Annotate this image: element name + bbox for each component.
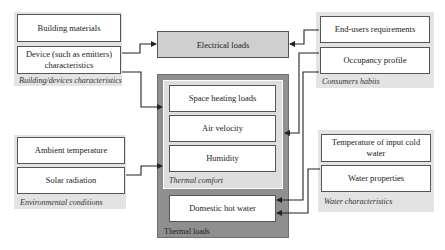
water-properties-to-dhw-arrow xyxy=(277,169,320,213)
end-users-to-electrical-arrow xyxy=(290,30,319,44)
solar-to-thermal-comfort-arrow xyxy=(126,166,162,175)
device-to-electrical-arrow xyxy=(122,44,156,53)
occupancy-to-dhw-arrow xyxy=(277,72,319,200)
connector-lines xyxy=(0,0,445,250)
device-to-thermal-comfort-arrow xyxy=(122,72,162,107)
end-users-to-thermal-comfort-arrow xyxy=(285,53,319,133)
